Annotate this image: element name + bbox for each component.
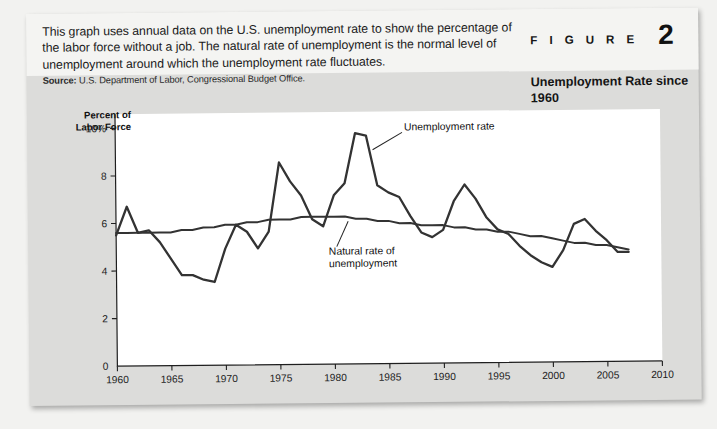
x-tick-label: 1995 <box>488 370 511 381</box>
figure-sheet: This graph uses annual data on the U.S. … <box>26 8 702 406</box>
annotation-leader-line <box>372 132 402 149</box>
y-tick-label: 4 <box>102 266 108 277</box>
x-tick-label: 2010 <box>651 369 674 380</box>
annotation-natural-rate: Natural rate of <box>329 245 395 257</box>
chart: 0246810%19601965197019751980198519901995… <box>26 8 702 406</box>
x-tick-label: 1975 <box>270 372 293 383</box>
x-tick-label: 1990 <box>433 371 456 382</box>
y-tick-label: 8 <box>101 171 107 182</box>
y-tick-label: 10% <box>86 123 106 134</box>
chart-axes <box>115 109 662 366</box>
x-tick-label: 1985 <box>379 371 402 382</box>
y-tick-label: 2 <box>102 313 108 324</box>
chart-svg: 0246810%19601965197019751980198519901995… <box>26 8 702 406</box>
x-tick-label: 1960 <box>106 374 129 385</box>
y-tick-label: 6 <box>101 218 107 229</box>
annotation-unemployment-rate: Unemployment rate <box>404 121 495 133</box>
x-tick-label: 1980 <box>324 372 347 383</box>
x-tick-label: 2005 <box>597 369 620 380</box>
annotation-leader-line-2 <box>337 221 349 246</box>
x-tick-label: 1965 <box>161 374 184 385</box>
x-tick-label: 1970 <box>215 373 238 384</box>
annotation-natural-rate-line2: unemployment <box>329 257 397 269</box>
scanned-page-background: This graph uses annual data on the U.S. … <box>0 0 717 429</box>
x-tick-label: 2000 <box>542 370 565 381</box>
y-tick-label: 0 <box>103 361 109 372</box>
